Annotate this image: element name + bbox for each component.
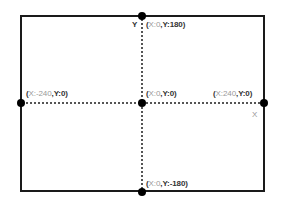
y-axis-label: Y xyxy=(132,20,137,29)
point-bottom-dot xyxy=(138,188,146,196)
point-center-label: (X:0,Y:0) xyxy=(146,89,177,98)
point-top-dot xyxy=(138,12,146,20)
point-bottom-label: (X:0,Y:-180) xyxy=(146,179,188,188)
point-right-dot xyxy=(260,99,268,107)
point-left-dot xyxy=(17,99,25,107)
point-left-label: (X:-240,Y:0) xyxy=(26,89,68,98)
point-right-label: (X:240,Y:0) xyxy=(213,89,252,98)
point-top-label: (X:0,Y:180) xyxy=(146,20,185,29)
point-center-dot xyxy=(138,99,146,107)
coordinate-diagram: Y X (X:0,Y:180) (X:-240,Y:0) (X:0,Y:0) (… xyxy=(0,0,281,207)
x-axis-label: X xyxy=(252,110,257,119)
